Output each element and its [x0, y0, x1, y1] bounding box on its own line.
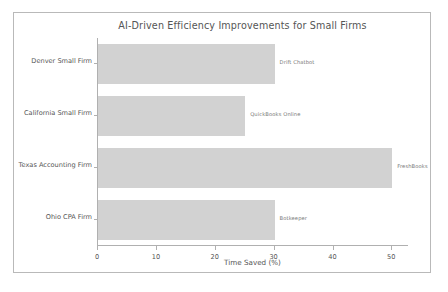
y-tick-mark: [94, 115, 97, 116]
x-tick-mark: [391, 246, 392, 250]
y-tick-mark: [94, 63, 97, 64]
bar-row: Texas Accounting Firm FreshBooks: [97, 142, 408, 194]
x-axis-title: Time Saved (%): [97, 258, 408, 267]
bar-annotation: Drift Chatbot: [280, 59, 315, 65]
bar[interactable]: [98, 96, 245, 136]
y-tick-label: Ohio CPA Firm: [46, 213, 92, 221]
x-tick-mark: [215, 246, 216, 250]
y-tick-mark: [94, 167, 97, 168]
bar-row: California Small Firm QuickBooks Online: [97, 90, 408, 142]
x-tick-mark: [156, 246, 157, 250]
y-tick-label: Texas Accounting Firm: [19, 161, 92, 169]
y-tick-mark: [94, 219, 97, 220]
bar-annotation: QuickBooks Online: [250, 111, 300, 117]
bar-row: Ohio CPA Firm Botkeeper: [97, 194, 408, 246]
chart-figure: AI-Driven Efficiency Improvements for Sm…: [0, 0, 448, 292]
y-tick-label: California Small Firm: [24, 109, 92, 117]
y-tick-label: Denver Small Firm: [31, 57, 92, 65]
bar[interactable]: [98, 200, 275, 240]
bar[interactable]: [98, 148, 392, 188]
bar-row: Denver Small Firm Drift Chatbot: [97, 38, 408, 90]
plot-area: Denver Small Firm Drift Chatbot Californ…: [97, 38, 408, 246]
x-tick-mark: [97, 246, 98, 250]
chart-title: AI-Driven Efficiency Improvements for Sm…: [100, 20, 385, 31]
bar-annotation: Botkeeper: [280, 215, 308, 221]
bar[interactable]: [98, 44, 275, 84]
x-tick-mark: [274, 246, 275, 250]
bar-annotation: FreshBooks: [397, 163, 427, 169]
x-tick-mark: [333, 246, 334, 250]
